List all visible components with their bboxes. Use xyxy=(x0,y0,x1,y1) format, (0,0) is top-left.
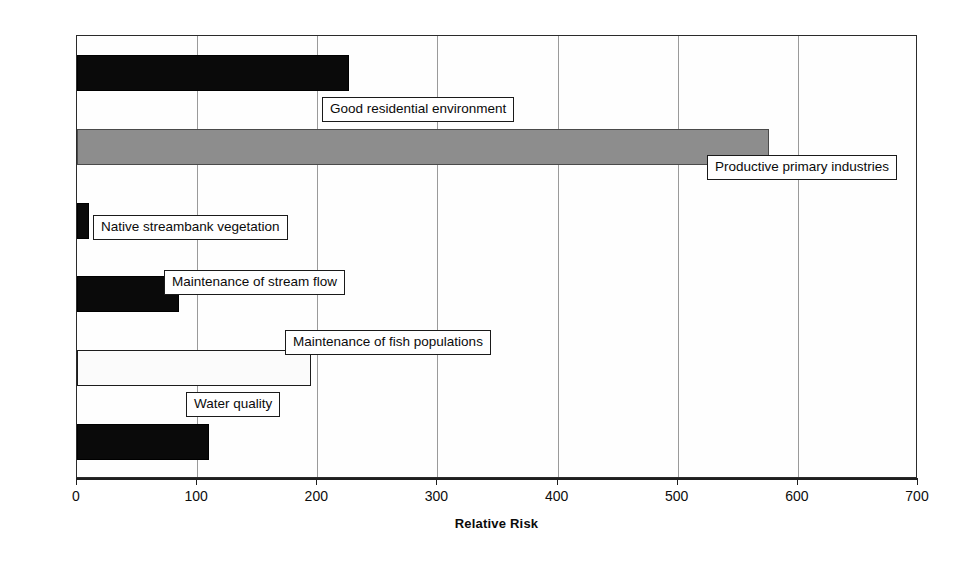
gridline xyxy=(558,36,559,477)
x-axis-tick-label: 700 xyxy=(905,488,928,504)
bar-chart-figure: Assessment Endpoint 01002003004005006007… xyxy=(0,0,964,564)
bar xyxy=(77,129,769,165)
x-axis-tick xyxy=(917,478,918,485)
x-axis-tick xyxy=(557,478,558,485)
x-axis-tick-label: 200 xyxy=(305,488,328,504)
x-axis-tick xyxy=(436,478,437,485)
x-axis-tick-label: 100 xyxy=(184,488,207,504)
bar-data-label: Maintenance of stream flow xyxy=(164,270,345,295)
x-axis-tick xyxy=(316,478,317,485)
bar-data-label: Productive primary industries xyxy=(707,155,897,180)
x-axis-tick xyxy=(797,478,798,485)
bar-data-label: Good residential environment xyxy=(322,97,514,122)
x-axis-tick xyxy=(196,478,197,485)
x-axis-line xyxy=(76,478,917,480)
gridline xyxy=(798,36,799,477)
gridline xyxy=(317,36,318,477)
bar-data-label: Maintenance of fish populations xyxy=(285,330,491,355)
bar xyxy=(77,424,209,460)
x-axis-title: Relative Risk xyxy=(76,516,917,531)
x-axis-tick xyxy=(677,478,678,485)
x-axis-tick-label: 300 xyxy=(425,488,448,504)
x-axis-tick-label: 400 xyxy=(545,488,568,504)
bar xyxy=(77,55,349,91)
x-axis-tick xyxy=(76,478,77,485)
bar-data-label: Native streambank vegetation xyxy=(93,215,288,240)
x-axis-tick-label: 0 xyxy=(72,488,80,504)
x-axis-tick-label: 600 xyxy=(785,488,808,504)
bar xyxy=(77,203,89,239)
bar xyxy=(77,350,311,386)
gridline xyxy=(678,36,679,477)
x-axis-tick-label: 500 xyxy=(665,488,688,504)
bar-data-label: Water quality xyxy=(186,392,280,417)
